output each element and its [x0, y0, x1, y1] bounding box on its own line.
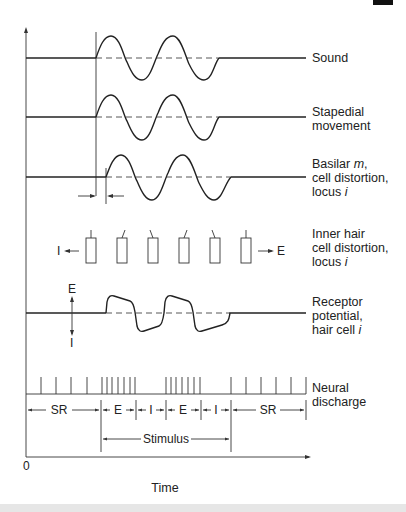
basilar-label-line3: locus i: [312, 185, 349, 199]
stapedial-trace: [26, 95, 306, 140]
auditory-transduction-diagram: 0 Time Sound Stapedial movement Basilar …: [0, 0, 406, 512]
inner-hair-label-line2: cell distortion,: [312, 241, 388, 255]
stapedial-label-line1: Stapedial: [312, 105, 364, 119]
neural-label-line2: discharge: [312, 395, 366, 409]
stapedial-label-line2: movement: [312, 119, 371, 133]
corner-tab: [373, 0, 393, 5]
phase-e-2: E: [179, 403, 187, 417]
hair-cell-1: [86, 238, 96, 263]
hair-cell-4: [179, 238, 189, 263]
receptor-label-line3: hair cell i: [312, 323, 363, 337]
hair-cell-inhibit-label: I: [57, 244, 60, 258]
inner-hair-label-line1: Inner hair: [312, 227, 365, 241]
inner-hair-label-line3: locus i: [312, 255, 349, 269]
basilar-label-line2: cell distortion,: [312, 171, 388, 185]
hair-cell-3: [148, 238, 158, 263]
receptor-inhibit-label: I: [70, 336, 73, 350]
basilar-trace: [26, 155, 306, 204]
bottom-strip: [0, 504, 406, 512]
receptor-label-line2: potential,: [312, 309, 363, 323]
receptor-trace: [26, 296, 306, 336]
y-axis: [24, 27, 28, 457]
phase-sr-1: SR: [51, 403, 68, 417]
phase-sr-2: SR: [260, 403, 277, 417]
sound-label: Sound: [312, 51, 348, 65]
stimulus-label: Stimulus: [143, 432, 189, 446]
phase-i-2: I: [214, 403, 217, 417]
hair-cell-5: [210, 238, 220, 263]
x-axis-origin-label: 0: [23, 459, 30, 473]
x-axis-label: Time: [151, 481, 178, 495]
neural-label-line1: Neural: [312, 381, 349, 395]
x-axis: [26, 455, 311, 459]
hair-cell-excite-label: E: [277, 244, 285, 258]
receptor-label-line1: Receptor: [312, 295, 363, 309]
hair-cell-2: [117, 238, 127, 263]
neural-discharge-trace: [26, 377, 306, 394]
inner-hair-cells: [64, 230, 274, 263]
hair-cell-6: [241, 238, 251, 263]
receptor-excite-label: E: [68, 282, 76, 296]
sound-trace: [26, 36, 306, 80]
phase-e-1: E: [114, 403, 122, 417]
phase-i-1: I: [149, 403, 152, 417]
basilar-label-line1: Basilar m,: [312, 157, 368, 171]
